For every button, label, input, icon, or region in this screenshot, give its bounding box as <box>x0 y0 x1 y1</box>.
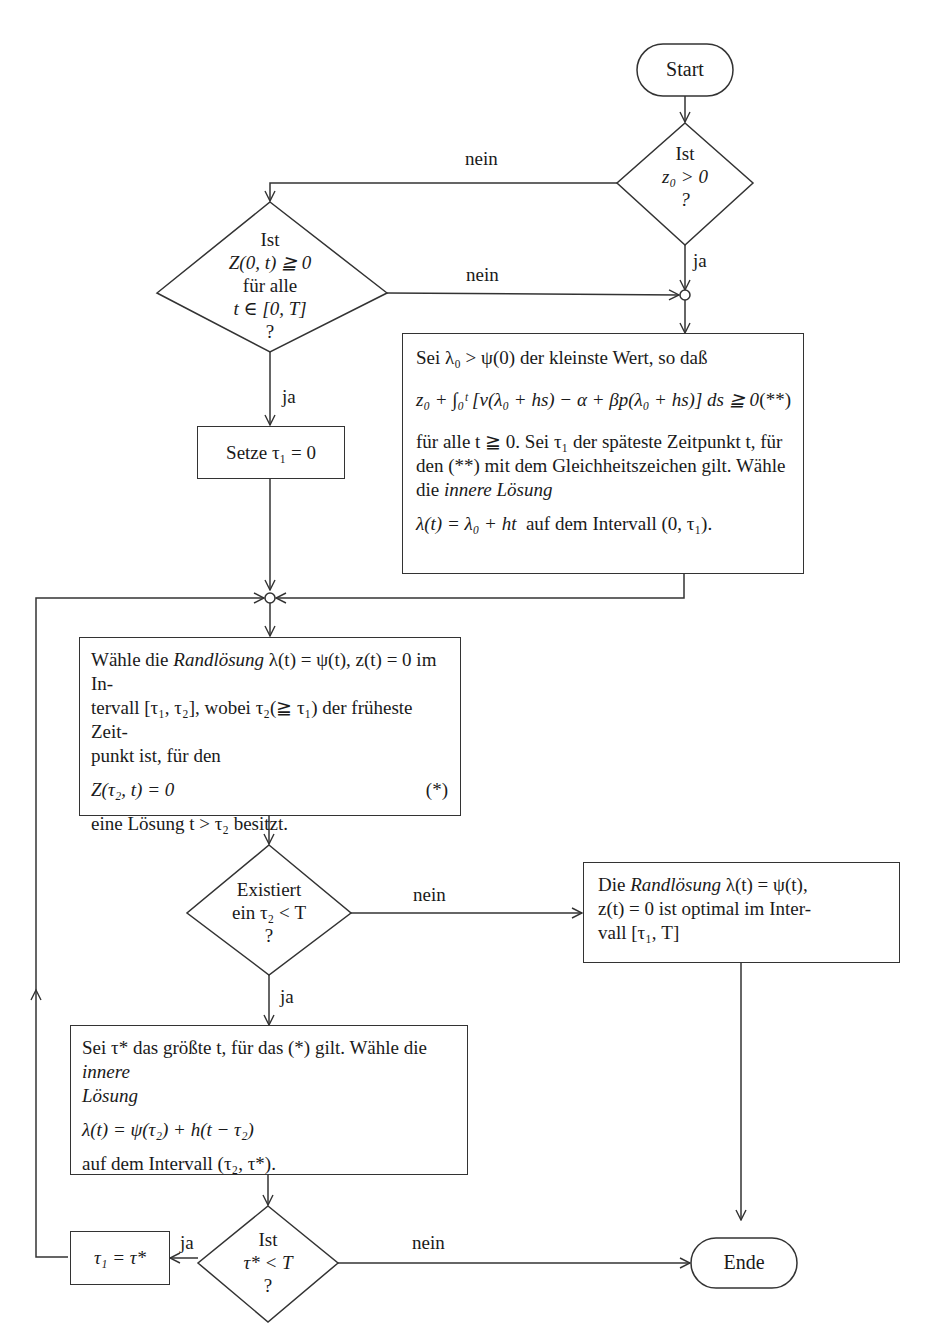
decision-condition: Z(0, t) ≧ 0 <box>195 251 345 274</box>
text-fragment: die <box>416 479 444 500</box>
decision-text: für alle <box>195 274 345 297</box>
edge-label-exists-no: nein <box>413 884 446 906</box>
decision-text: Ist <box>637 142 733 165</box>
process-text-line: Wähle die Randlösung λ(t) = ψ(t), z(t) =… <box>91 648 448 696</box>
text-fragment: Wähle die <box>91 649 173 670</box>
process-text: Sei λ₀ > ψ(0) der kleinste Wert, so daß <box>416 346 791 370</box>
term-boundary-solution: Randlösung <box>630 874 721 895</box>
process-text-line: die innere Lösung <box>416 478 791 502</box>
question-mark: ? <box>210 924 328 947</box>
solution-formula: λ(t) = λ₀ + ht <box>416 513 516 534</box>
question-mark: ? <box>218 1274 318 1297</box>
integral-condition: z₀ + ∫₀ᵗ [v(λ₀ + hs) − α + βp(λ₀ + hs)] … <box>416 388 791 412</box>
junction-1 <box>680 290 690 300</box>
process-set-tau1-zero: Setze τ₁ = 0 <box>197 426 345 479</box>
decision-text: Ist <box>218 1228 318 1251</box>
decision-text: Ist <box>195 228 345 251</box>
junction-2 <box>265 593 275 603</box>
integral-formula: z₀ + ∫₀ᵗ [v(λ₀ + hs) − α + βp(λ₀ + hs)] … <box>416 388 759 412</box>
term-inner-solution: innere Lösung <box>444 479 553 500</box>
decision-range: t ∈ [0, T] <box>195 297 345 320</box>
edge-label-z0-yes: ja <box>693 250 707 272</box>
question-mark: ? <box>195 320 345 343</box>
edge-label-z0-no: nein <box>465 148 498 170</box>
decision-tau-star-lt-T: Ist τ* < T ? <box>218 1228 318 1297</box>
process-text: tervall [τ₁, τ₂], wobei τ₂(≧ τ₁) der frü… <box>91 696 448 744</box>
process-text: τ₁ = τ* <box>94 1247 146 1268</box>
equation-line: Z(τ₂, t) = 0 (*) <box>91 778 448 802</box>
process-inner-solution-1: Sei λ₀ > ψ(0) der kleinste Wert, so daß … <box>402 333 804 574</box>
process-text: punkt ist, für den <box>91 744 448 768</box>
process-text-line: Die Randlösung λ(t) = ψ(t), <box>598 873 887 897</box>
decision-text: Existiert <box>210 878 328 901</box>
process-text: z(t) = 0 ist optimal im Inter- <box>598 897 887 921</box>
edge-label-tau-yes: ja <box>180 1232 194 1254</box>
term-inner: innere <box>82 1061 130 1082</box>
process-text: den (**) mit dem Gleichheitszeichen gilt… <box>416 454 791 478</box>
edge-label-exists-yes: ja <box>280 986 294 1008</box>
decision-exists-tau2: Existiert ein τ₂ < T ? <box>210 878 328 947</box>
decision-condition: τ* < T <box>218 1251 318 1274</box>
decision-condition: ein τ₂ < T <box>210 901 328 924</box>
end-terminal: Ende <box>691 1251 797 1274</box>
formula-tag: (*) <box>426 778 448 802</box>
decision-condition: z₀ > 0 <box>637 165 733 188</box>
term-boundary-solution: Randlösung <box>173 649 264 670</box>
process-boundary-optimal: Die Randlösung λ(t) = ψ(t), z(t) = 0 ist… <box>583 862 900 963</box>
text-fragment: λ(t) = ψ(t), <box>721 874 808 895</box>
process-text: eine Lösung t > τ₂ besitzt. <box>91 812 448 836</box>
decision-Z-nonnegative: Ist Z(0, t) ≧ 0 für alle t ∈ [0, T] ? <box>195 228 345 343</box>
question-mark: ? <box>637 188 733 211</box>
text-fragment: Sei τ* das größte t, für das (*) gilt. W… <box>82 1037 427 1058</box>
edge-label-Z-no: nein <box>466 264 499 286</box>
decision-z0-positive: Ist z₀ > 0 ? <box>637 142 733 211</box>
process-text: für alle t ≧ 0. Sei τ₁ der späteste Zeit… <box>416 430 791 454</box>
process-text: auf dem Intervall (τ₂, τ*). <box>82 1152 457 1176</box>
process-text: Setze τ₁ = 0 <box>226 442 316 463</box>
text-fragment: Die <box>598 874 630 895</box>
interval-text: auf dem Intervall (0, τ₁). <box>516 513 712 534</box>
process-inner-solution-2: Sei τ* das größte t, für das (*) gilt. W… <box>70 1025 468 1175</box>
solution-formula: λ(t) = ψ(τ₂) + h(t − τ₂) <box>82 1118 457 1142</box>
equation: Z(τ₂, t) = 0 <box>91 778 174 802</box>
term-solution: Lösung <box>82 1084 457 1108</box>
process-set-tau1-tau-star: τ₁ = τ* <box>70 1231 170 1285</box>
edge-label-tau-no: nein <box>412 1232 445 1254</box>
solution-formula-line: λ(t) = λ₀ + ht auf dem Intervall (0, τ₁)… <box>416 512 791 536</box>
process-boundary-solution: Wähle die Randlösung λ(t) = ψ(t), z(t) =… <box>79 637 461 816</box>
process-text: vall [τ₁, T] <box>598 921 887 945</box>
process-text-line: Sei τ* das größte t, für das (*) gilt. W… <box>82 1036 457 1084</box>
edge-label-Z-yes: ja <box>282 386 296 408</box>
start-terminal: Start <box>637 58 733 81</box>
formula-tag: (**) <box>759 388 791 412</box>
